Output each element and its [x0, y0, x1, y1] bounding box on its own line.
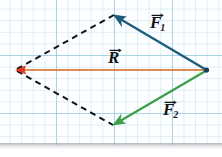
vector-diagram-figure: F1 F2 R	[0, 0, 222, 157]
vector-label-r: R	[108, 49, 119, 66]
construction-line-parallel-to-f1	[17, 71, 113, 125]
vector-origin-dot	[204, 67, 209, 72]
vector-label-f1: F1	[150, 14, 165, 33]
construction-line-parallel-to-f2	[17, 15, 114, 69]
arrow-overbar-icon-f1	[151, 12, 164, 18]
arrow-overbar-icon-f2	[164, 99, 177, 105]
vector-label-f2: F2	[163, 101, 178, 120]
arrow-overbar-icon-r	[109, 47, 122, 53]
vector-svg-canvas	[0, 0, 222, 157]
